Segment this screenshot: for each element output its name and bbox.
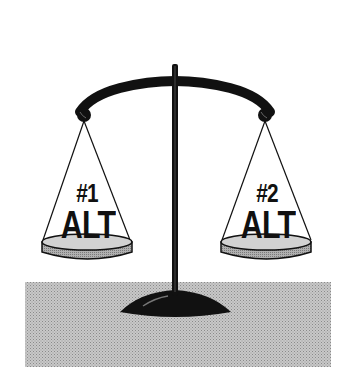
left-pan-number: #1 — [67, 180, 107, 206]
right-pan-number: #2 — [247, 180, 287, 206]
right-pan-word: ALT — [238, 206, 299, 244]
right-hook — [258, 108, 272, 122]
balance-scale-illustration — [0, 0, 342, 367]
left-pan-word: ALT — [58, 206, 119, 244]
left-hook — [77, 108, 91, 122]
